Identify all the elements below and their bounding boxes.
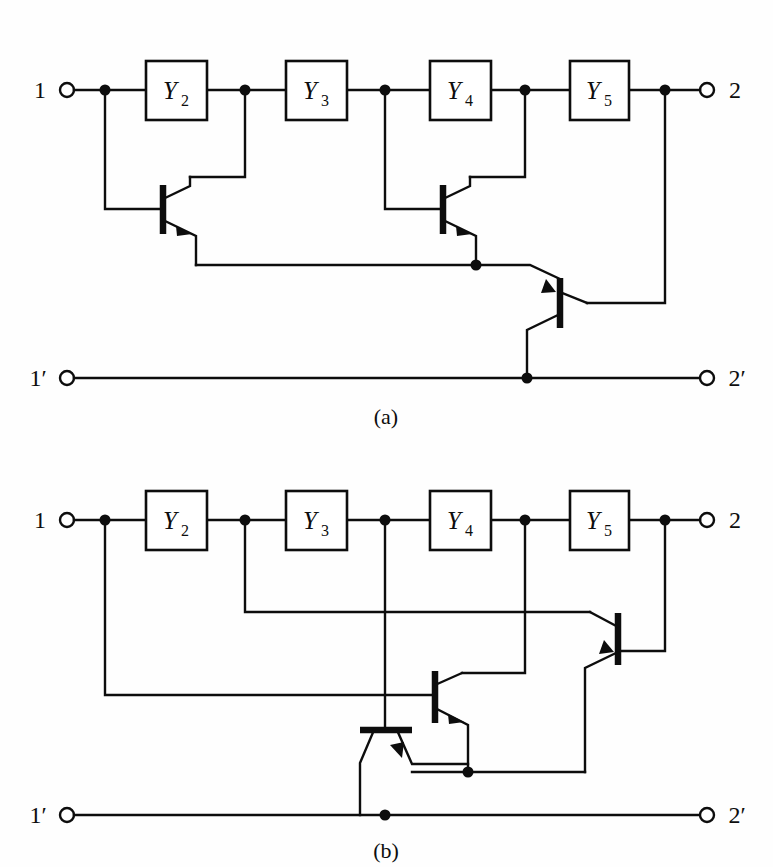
caption-b: (b): [373, 838, 399, 863]
q2-a-collector-lead: [443, 177, 470, 199]
node-dot-a-4: [520, 85, 531, 96]
block-y2-a: Y 2: [146, 61, 207, 120]
q2-a-emitter-arrow: [456, 226, 472, 236]
transistor-q2-a: [443, 177, 476, 265]
wire-a-node5-to-q3-collector: [587, 90, 665, 303]
q3-a-base-arrow: [541, 279, 556, 293]
block-y2-b-sub: 2: [181, 522, 189, 539]
q2-b-collector-lead: [435, 673, 462, 685]
node-dot-a-7: [522, 373, 533, 384]
node-dot-a-1: [100, 85, 111, 96]
terminal-label-1-b: 1: [34, 507, 46, 533]
terminal-circle-1-b: [60, 513, 74, 527]
q1-a-emitter-arrow: [176, 226, 192, 236]
terminal-label-1p-b: 1′: [29, 802, 46, 828]
diagram-b: 1 2 Y 2 Y 3 Y: [29, 491, 745, 863]
terminal-label-2-a: 2: [729, 77, 741, 103]
node-dot-b-7: [380, 810, 391, 821]
caption-a: (a): [374, 404, 398, 429]
transistor-q3-b: [585, 612, 618, 772]
node-dot-b-6: [463, 767, 474, 778]
block-y4-b: Y 4: [430, 491, 491, 550]
block-y5-b: Y 5: [570, 491, 629, 550]
terminal-circle-1-a: [60, 83, 74, 97]
terminal-circle-1p-a: [60, 371, 74, 385]
diagram-a: 1 2 Y 2 Y 3 Y: [29, 61, 745, 429]
node-dot-a-6: [471, 260, 482, 271]
node-dot-a-3: [380, 85, 391, 96]
block-y3-b: Y 3: [286, 491, 347, 550]
terminal-label-2-b: 2: [729, 507, 741, 533]
block-y4-b-sub: 4: [465, 522, 473, 539]
terminal-circle-2p-b: [700, 808, 714, 822]
block-y3-b-sub: 3: [321, 522, 329, 539]
q1-b-emitter-lead: [397, 730, 468, 764]
block-y3-a: Y 3: [286, 61, 347, 120]
q3-b-collector-lead: [590, 612, 618, 627]
q3-a-collector-lead: [560, 292, 587, 303]
q2-a-emitter-lead: [443, 220, 476, 265]
q3-b-emitter-lead: [585, 652, 618, 772]
q1-b-emitter-arrow: [390, 742, 404, 758]
node-dot-b-4: [520, 515, 531, 526]
circuit-diagram-canvas: 1 2 Y 2 Y 3 Y: [0, 0, 773, 867]
terminal-label-2p-a: 2′: [728, 365, 745, 391]
terminal-circle-2p-a: [700, 371, 714, 385]
node-dot-b-3: [380, 515, 391, 526]
transistor-q1-a: [163, 177, 196, 265]
node-dot-a-5: [660, 85, 671, 96]
q3-b-emitter-arrow: [599, 640, 614, 654]
q1-b-collector-lead: [360, 730, 374, 815]
q1-a-collector-lead: [163, 177, 190, 199]
terminal-label-1p-a: 1′: [29, 365, 46, 391]
terminal-circle-2-a: [700, 83, 714, 97]
figure-root: 1 2 Y 2 Y 3 Y: [0, 0, 773, 867]
block-y5-b-sub: 5: [604, 522, 612, 539]
transistor-q2-b: [435, 671, 468, 772]
block-y4-a-sub: 4: [465, 92, 473, 109]
q3-a-emitter-lead: [527, 314, 560, 378]
q1-a-emitter-lead: [163, 220, 196, 265]
block-y3-a-sub: 3: [321, 92, 329, 109]
transistor-q3-a: [527, 278, 587, 378]
wire-a-bus-to-q3-base: [476, 265, 560, 279]
block-y2-b: Y 2: [146, 491, 207, 550]
block-y5-a: Y 5: [570, 61, 629, 120]
terminal-label-2p-b: 2′: [728, 802, 745, 828]
node-dot-a-2: [240, 85, 251, 96]
block-y2-a-sub: 2: [181, 92, 189, 109]
terminal-label-1-a: 1: [34, 77, 46, 103]
node-dot-b-2: [240, 515, 251, 526]
block-y4-a: Y 4: [430, 61, 491, 120]
terminal-circle-2-b: [700, 513, 714, 527]
node-dot-b-5: [660, 515, 671, 526]
block-y5-a-sub: 5: [604, 92, 612, 109]
terminal-circle-1p-b: [60, 808, 74, 822]
node-dot-b-1: [100, 515, 111, 526]
